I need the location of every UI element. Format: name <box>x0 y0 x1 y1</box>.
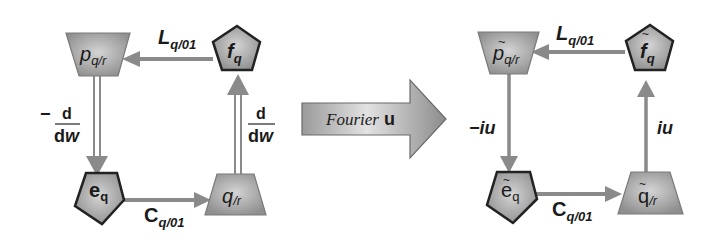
fourier-transform-arrow: Fourieru <box>302 80 446 158</box>
node-q: q/r <box>205 174 266 215</box>
node-p-tilde: ~ pq/r <box>478 32 539 74</box>
svg-text:dw: dw <box>54 126 80 146</box>
node-p: pq/r <box>66 33 130 76</box>
edge-label-C: Cq/01 <box>144 204 184 230</box>
edge-right-right-diagram: iu <box>637 80 673 172</box>
arrowhead-down-icon <box>500 156 518 173</box>
edge-bottom-right-diagram: Cq/01 <box>536 186 622 224</box>
arrowhead-right-icon <box>605 186 622 202</box>
node-f-tilde: ~ fq <box>626 25 673 70</box>
arrowhead-up-icon <box>637 80 655 97</box>
fourier-diagram: Lq/01 Cq/01 − d dw d dw <box>0 0 714 240</box>
edge-label-minus-iu: −iu <box>469 118 496 138</box>
node-e-tilde: ~ eq <box>487 172 537 223</box>
edge-left-left-diagram: − d dw <box>40 76 108 176</box>
edge-top-right-diagram: Lq/01 <box>531 22 625 60</box>
edge-top-left-diagram: Lq/01 <box>122 26 213 67</box>
left-diagram: Lq/01 Cq/01 − d dw d dw <box>40 26 275 230</box>
node-e: eq <box>75 173 124 224</box>
svg-text:dw: dw <box>248 126 274 146</box>
svg-text:d: d <box>256 105 266 122</box>
edge-label-L: Lq/01 <box>556 22 594 48</box>
minus-sign: − <box>40 104 51 124</box>
edge-bottom-left-diagram: Cq/01 <box>123 192 211 230</box>
edge-right-left-diagram: d dw <box>227 74 275 175</box>
edge-label-L: Lq/01 <box>158 26 196 52</box>
tilde-mark: ~ <box>642 27 649 41</box>
edge-label-C: Cq/01 <box>552 198 592 224</box>
node-f: fq <box>213 26 260 70</box>
right-diagram: Lq/01 Cq/01 −iu iu ~ pq/r ~ <box>469 22 683 224</box>
edge-label-iu: iu <box>657 118 673 138</box>
edge-left-right-diagram: −iu <box>469 74 518 173</box>
svg-text:d: d <box>62 105 72 122</box>
fourier-label: Fourieru <box>325 109 395 129</box>
node-q-tilde: ~ q/r <box>618 172 683 214</box>
arrowhead-up-icon <box>227 74 249 95</box>
